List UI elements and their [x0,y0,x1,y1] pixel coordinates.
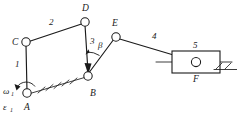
joint-C[interactable] [22,38,30,46]
angular-velocity-label: ω 1 [3,86,14,97]
link-2-CD [29,24,83,42]
joint-label-D: D [81,3,89,13]
angle-label-beta: β [97,40,103,50]
link-3-DB [85,25,92,75]
joint-label-B: B [90,88,96,98]
joint-label-F: F [192,74,199,84]
joint-label-C: C [12,37,19,47]
joint-label-A: A [23,102,30,112]
epsilon-subscript: 1 [10,107,13,113]
joint-B[interactable] [84,72,92,80]
angular-acceleration-label: ε 1 [3,102,13,113]
link-label-5: 5 [193,40,198,50]
link-label-3: 3 [89,36,95,46]
mechanism-figure: A C D B E F 1 2 3 4 5 β ω 1 ε 1 [0,0,237,117]
link-label-2: 2 [49,17,54,27]
epsilon-symbol: ε [3,102,7,112]
joint-E[interactable] [112,33,120,41]
joint-label-E: E [111,18,118,28]
ground-hatch-AB [30,77,88,94]
link-label-1: 1 [15,59,20,69]
omega-symbol: ω [3,86,9,96]
angle-beta-arc [85,49,99,55]
joint-A[interactable] [23,89,31,97]
mechanism-canvas: A C D B E F 1 2 3 4 5 β ω 1 ε 1 [0,0,237,117]
omega-subscript: 1 [11,91,14,97]
joint-D[interactable] [81,18,89,26]
joint-F[interactable] [191,57,200,66]
link-1-AC [26,45,27,92]
link-label-4: 4 [152,31,157,41]
